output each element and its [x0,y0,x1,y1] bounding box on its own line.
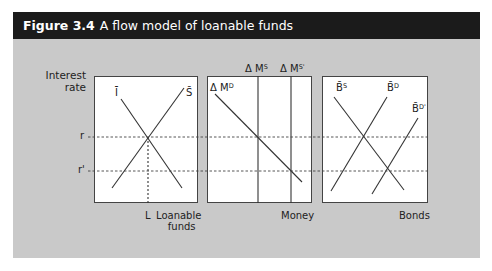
bond-demand2-sup: D' [419,103,426,111]
bond-supply-base: B̄ [336,82,343,93]
money-supply2-label: Δ MS' [280,63,305,74]
investment-curve [121,99,182,188]
bond-demand-label: B̄D [387,82,399,93]
bond-demand-base: B̄ [387,82,394,93]
money-supply-label: Δ MS [245,63,268,74]
investment-label: Ī [115,87,118,98]
equilibrium-l-label: L [145,210,151,221]
bond-demand-curve [331,97,387,191]
money-supply-sup: S [264,63,268,71]
money-supply-base: Δ M [245,63,264,74]
bond-supply-curve [334,97,404,190]
money-x-label: Money [281,210,314,221]
loanable-funds-x-label: Loanable funds [156,210,201,232]
money-demand-sup: D [229,82,234,90]
loanable-funds-x-label-line1: Loanable [156,210,201,221]
bond-demand-sup: D [394,82,399,90]
bond-demand2-label: B̄D' [412,103,426,114]
bond-supply-label: B̄S [336,82,347,93]
bonds-x-label: Bonds [399,210,430,221]
money-supply2-sup: S' [299,63,305,71]
money-demand-base: Δ M [210,82,229,93]
money-supply2-base: Δ M [280,63,299,74]
money-demand-label: Δ MD [210,82,234,93]
saving-label: S̄ [186,87,192,98]
diagram-lines [0,0,492,271]
bond-supply-sup: S [343,82,347,90]
bond-demand2-base: B̄ [412,103,419,114]
loanable-funds-x-label-line2: funds [156,221,201,232]
